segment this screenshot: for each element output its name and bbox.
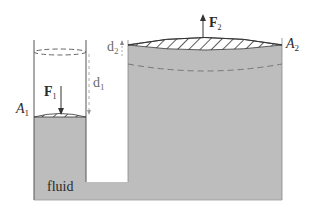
f1-label: F1 [44, 84, 57, 101]
d2-label: d2 [107, 39, 119, 56]
d1-label: d1 [93, 75, 105, 92]
fluid-body [34, 38, 282, 200]
hydraulic-press-diagram: d1 d2 F1 A1 F2 A2 fluid [0, 0, 315, 206]
a2-label: A2 [285, 36, 299, 53]
left-piston-hatched-surface [34, 114, 86, 118]
left-initial-level-dashed [34, 49, 86, 55]
fluid-label: fluid [47, 179, 73, 194]
a1-label: A1 [15, 101, 29, 118]
f2-arrow-up-icon [200, 14, 206, 21]
d2-arrow-icon [120, 40, 124, 45]
f2-label: F2 [209, 15, 222, 32]
d1-arrow-icon [87, 110, 91, 115]
